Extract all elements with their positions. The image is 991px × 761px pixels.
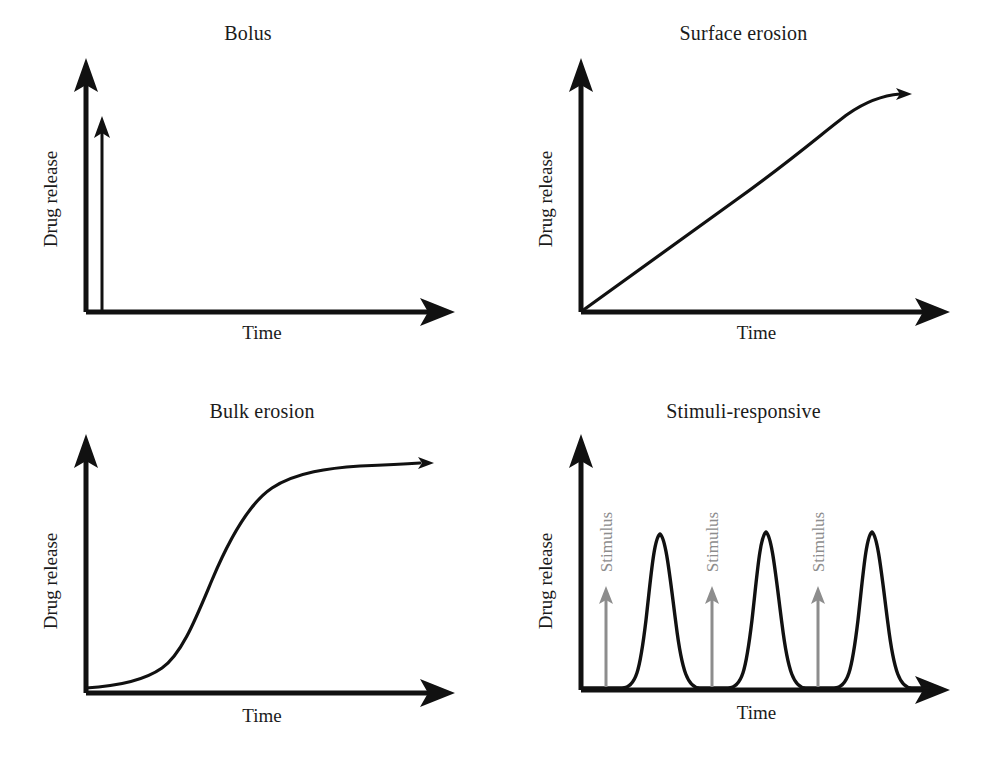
x-axis-label-surface-erosion: Time xyxy=(496,322,991,344)
plot-bulk-erosion xyxy=(0,380,496,761)
x-axis-stimuli-responsive xyxy=(581,676,950,704)
stimulus-label-1: Stimulus xyxy=(597,497,617,587)
y-axis-label-bulk-erosion: Drug release xyxy=(40,521,62,641)
y-axis-bolus xyxy=(74,58,98,312)
x-axis-label-bolus: Time xyxy=(0,322,496,344)
y-axis-surface-erosion xyxy=(569,58,593,312)
x-axis-label-stimuli-responsive: Time xyxy=(496,702,991,724)
figure-panel-grid: Bolus Time Drug release Surface erosion xyxy=(0,0,991,761)
bolus-spike xyxy=(94,116,110,312)
y-axis-label-stimuli-responsive: Drug release xyxy=(535,521,557,641)
release-curve-stimuli-responsive xyxy=(582,532,943,694)
stimulus-label-2: Stimulus xyxy=(703,497,723,587)
panel-stimuli-responsive: Stimuli-responsive xyxy=(496,380,991,761)
y-axis-label-bolus: Drug release xyxy=(40,139,62,259)
y-axis-label-surface-erosion: Drug release xyxy=(535,139,557,259)
panel-bolus: Bolus Time Drug release xyxy=(0,0,496,380)
y-axis-stimuli-responsive xyxy=(569,434,593,690)
release-curve-surface-erosion xyxy=(582,88,912,311)
stimulus-label-3: Stimulus xyxy=(809,497,829,587)
release-curve-bulk-erosion xyxy=(86,457,434,688)
x-axis-bulk-erosion xyxy=(86,679,455,707)
y-axis-bulk-erosion xyxy=(74,434,98,693)
stimulus-arrow-2 xyxy=(705,586,719,687)
x-axis-label-bulk-erosion: Time xyxy=(0,705,496,727)
panel-surface-erosion: Surface erosion Time Drug release xyxy=(496,0,991,380)
stimulus-arrow-1 xyxy=(599,586,613,687)
panel-bulk-erosion: Bulk erosion Time Drug release xyxy=(0,380,496,761)
stimulus-arrow-3 xyxy=(811,586,825,687)
